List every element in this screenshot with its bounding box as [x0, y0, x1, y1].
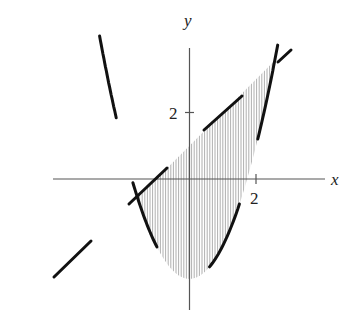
shaded-region [137, 40, 275, 290]
x-tick-label: 2 [250, 189, 259, 208]
line-curve [54, 50, 291, 277]
y-tick-label: 2 [169, 104, 178, 123]
y-axis-label: y [182, 11, 192, 30]
x-axis-label: x [330, 170, 339, 189]
region-diagram: y x 2 2 [0, 0, 352, 313]
